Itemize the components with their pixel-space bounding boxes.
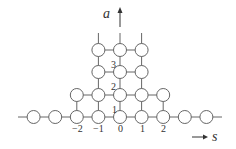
lattice-node (92, 111, 105, 124)
a-level-label: 2 (111, 81, 116, 92)
lattice-node (135, 111, 148, 124)
lattice-node (70, 89, 83, 102)
lattice-node (92, 89, 105, 102)
lattice-node (157, 111, 170, 124)
lattice-node (135, 66, 148, 79)
a-level-label: 1 (112, 104, 117, 115)
lattice-node (200, 111, 213, 124)
s-tick-label: −2 (72, 123, 83, 134)
lattice-node (92, 66, 105, 79)
s-axis-arrow (192, 135, 208, 140)
lattice-node (135, 89, 148, 102)
lattice-node (92, 44, 105, 57)
s-tick-label: 2 (161, 123, 166, 134)
a-level-label: 3 (111, 59, 116, 70)
lattice-node (157, 89, 170, 102)
s-axis-label: s (212, 129, 218, 144)
lattice-node (178, 111, 191, 124)
lattice-node (49, 111, 62, 124)
s-tick-label: −1 (93, 123, 104, 134)
s-tick-label: 1 (140, 123, 145, 134)
lattice-node (114, 44, 127, 57)
a-axis-label: a (103, 6, 110, 21)
lattice-node (27, 111, 40, 124)
s-tick-label: 0 (118, 123, 123, 134)
lattice-node (70, 111, 83, 124)
a-axis-arrow (118, 7, 123, 27)
lattice-node (135, 44, 148, 57)
lattice-diagram: a s −2 −1 0 1 2 1 2 3 (0, 0, 236, 149)
